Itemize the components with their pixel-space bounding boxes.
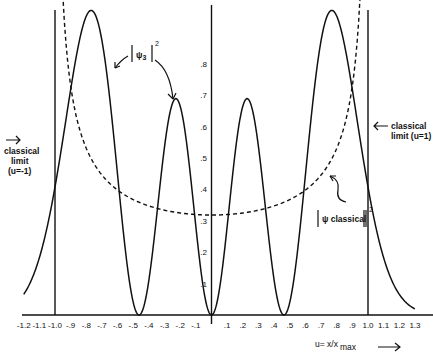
x-tick-label: -.4 xyxy=(144,321,154,330)
y-tick-label: .6 xyxy=(200,123,207,132)
x-tick-label: 1.2 xyxy=(394,321,406,330)
svg-text:2: 2 xyxy=(155,40,159,47)
x-tick-label: .9 xyxy=(349,321,356,330)
x-tick-label: 1.3 xyxy=(409,321,421,330)
y-tick-labels: .1.2.3.4.5.6.7.8 xyxy=(200,60,207,289)
svg-text:u= x/xmax: u= x/xmax xyxy=(315,339,357,352)
y-tick-label: .4 xyxy=(200,185,207,194)
right-classical-limit-annotation: classical limit (u=1) xyxy=(374,121,432,141)
svg-text:limit (u=1): limit (u=1) xyxy=(391,131,432,141)
svg-text:classical: classical xyxy=(4,146,39,156)
y-tick-label: .5 xyxy=(200,154,207,163)
arrow-right-icon xyxy=(378,343,400,351)
x-tick-label: .5 xyxy=(286,321,293,330)
x-tick-label: .1 xyxy=(224,321,231,330)
x-tick-label: -.5 xyxy=(129,321,139,330)
x-tick-label: .6 xyxy=(302,321,309,330)
svg-text:2: 2 xyxy=(369,206,373,213)
x-tick-label: .7 xyxy=(318,321,325,330)
x-tick-label: 1.1 xyxy=(378,321,390,330)
svg-text:(u=-1): (u=-1) xyxy=(8,166,32,176)
y-tick-label: .8 xyxy=(200,60,207,69)
x-tick-label: .8 xyxy=(333,321,340,330)
x-tick-label: -.2 xyxy=(176,321,186,330)
psi3-annotation: ψ3 2 xyxy=(115,40,176,99)
arrow-to-inner-peak-icon xyxy=(155,60,173,99)
x-tick-label: -.7 xyxy=(97,321,107,330)
svg-text:ψ classical: ψ classical xyxy=(322,214,366,224)
x-tick-label: .3 xyxy=(255,321,262,330)
x-tick-label: -1.1 xyxy=(32,321,46,330)
x-tick-label: -1.0 xyxy=(48,321,62,330)
x-tick-label: -.3 xyxy=(160,321,170,330)
y-tick-label: .7 xyxy=(200,91,207,100)
x-axis-label: u= x/xmax xyxy=(315,339,400,352)
x-tick-label: -1.2 xyxy=(17,321,31,330)
arrow-right-icon xyxy=(6,136,20,144)
left-classical-limit-annotation: classical limit (u=-1) xyxy=(4,136,39,176)
svg-text:ψ3: ψ3 xyxy=(136,50,146,61)
arrow-to-outer-peak-icon xyxy=(115,56,128,68)
svg-text:limit: limit xyxy=(11,156,29,166)
psi-classical-annotation: ψ classical 2 xyxy=(318,176,373,227)
x-tick-label: -.6 xyxy=(113,321,123,330)
x-tick-label: 1.0 xyxy=(362,321,374,330)
x-tick-label: .4 xyxy=(271,321,278,330)
x-tick-label: -.1 xyxy=(191,321,201,330)
x-tick-label: -.9 xyxy=(66,321,76,330)
probability-density-chart: -1.2-1.1-1.0-.9-.8-.7-.6-.5-.4-.3-.2-.1.… xyxy=(0,0,433,363)
x-tick-label: -.8 xyxy=(82,321,92,330)
svg-text:classical: classical xyxy=(391,121,426,131)
y-tick-label: .2 xyxy=(200,248,207,257)
x-tick-labels: -1.2-1.1-1.0-.9-.8-.7-.6-.5-.4-.3-.2-.1.… xyxy=(17,321,421,330)
x-tick-label: .2 xyxy=(239,321,246,330)
arrow-left-icon xyxy=(374,122,388,130)
y-tick-label: .3 xyxy=(200,217,207,226)
